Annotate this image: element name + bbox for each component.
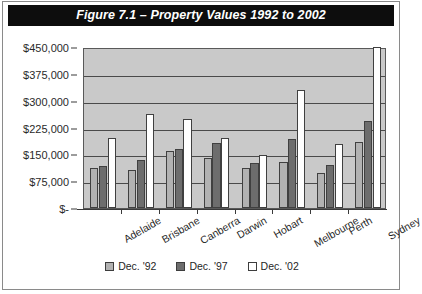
- bar: [279, 162, 287, 208]
- bar: [99, 166, 107, 208]
- bar: [175, 149, 183, 208]
- bar: [326, 165, 334, 208]
- x-axis-tick-label: Adelaide: [121, 214, 162, 245]
- y-axis-tick-label: $75,000: [29, 176, 69, 188]
- bar: [221, 138, 229, 208]
- bar: [183, 119, 191, 208]
- y-axis-tick-label: $375,000: [23, 69, 69, 81]
- legend-swatch-icon: [248, 262, 257, 271]
- bar: [212, 143, 220, 208]
- y-axis-tick-label: $300,000: [23, 96, 69, 108]
- x-axis-line: [77, 209, 387, 210]
- y-axis-tick-label: $450,000: [23, 42, 69, 54]
- legend-swatch-icon: [176, 262, 185, 271]
- bar: [90, 168, 98, 208]
- x-axis-tick-mark: [235, 209, 236, 214]
- legend-swatch-icon: [105, 262, 114, 271]
- bar: [317, 173, 325, 208]
- bar-group: [311, 49, 349, 208]
- bar: [335, 144, 343, 208]
- x-axis-tick-label: Darwin: [234, 214, 268, 241]
- bar-group: [236, 49, 274, 208]
- bar-group: [198, 49, 236, 208]
- bars-layer: [84, 49, 385, 208]
- y-axis-tick-mark: [71, 128, 77, 129]
- y-axis-tick-label: $150,000: [23, 149, 69, 161]
- y-axis-tick-mark: [71, 48, 77, 49]
- bar-group: [160, 49, 198, 208]
- legend-item: Dec. '97: [176, 260, 227, 272]
- bar-group: [84, 49, 122, 208]
- x-axis-tick-label: Brisbane: [159, 214, 201, 245]
- y-axis-tick-mark: [71, 182, 77, 183]
- bar: [128, 170, 136, 208]
- y-axis-tick-mark: [71, 155, 77, 156]
- y-axis-tick-mark: [71, 101, 77, 102]
- bar: [288, 139, 296, 208]
- legend-item: Dec. '92: [105, 260, 156, 272]
- y-axis: $450,000$375,000$300,000$225,000$150,000…: [9, 42, 77, 217]
- bar: [166, 151, 174, 208]
- y-axis-tick-label: $225,000: [23, 123, 69, 135]
- y-axis-tick-label: $-: [59, 203, 69, 215]
- bar: [373, 47, 381, 208]
- x-axis-tick-mark: [121, 209, 122, 214]
- x-axis-tick-label: Sydney: [386, 214, 422, 242]
- x-axis-tick-mark: [159, 209, 160, 214]
- x-axis-tick-label: Hobart: [272, 214, 305, 240]
- bar-group: [273, 49, 311, 208]
- legend-label: Dec. '97: [189, 260, 227, 272]
- x-axis-tick-mark: [272, 209, 273, 214]
- legend-label: Dec. '02: [261, 260, 299, 272]
- bar: [355, 142, 363, 208]
- chart-legend: Dec. '92Dec. '97Dec. '02: [3, 260, 401, 272]
- x-axis-tick-mark: [348, 209, 349, 214]
- bar: [250, 163, 258, 208]
- bar: [146, 114, 154, 208]
- bar-group: [349, 49, 387, 208]
- bar: [137, 160, 145, 208]
- bar: [259, 155, 267, 208]
- bar: [297, 90, 305, 208]
- x-axis-tick-mark: [310, 209, 311, 214]
- bar: [242, 168, 250, 208]
- plot-area: [83, 48, 386, 209]
- bar: [108, 138, 116, 208]
- bar: [204, 158, 212, 208]
- legend-item: Dec. '02: [248, 260, 299, 272]
- figure-frame: Figure 7.1 – Property Values 1992 to 200…: [2, 1, 400, 290]
- y-axis-tick-mark: [71, 74, 77, 75]
- legend-label: Dec. '92: [118, 260, 156, 272]
- bar-group: [122, 49, 160, 208]
- bar: [364, 121, 372, 208]
- figure-title: Figure 7.1 – Property Values 1992 to 200…: [8, 5, 394, 26]
- x-axis-tick-mark: [197, 209, 198, 214]
